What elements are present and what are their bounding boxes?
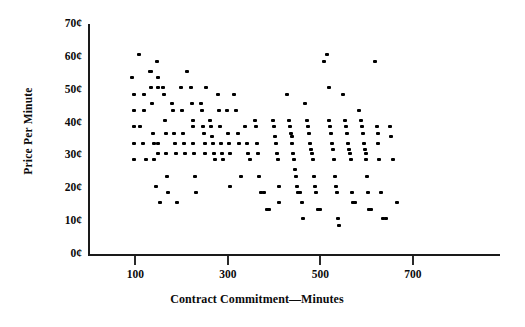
scatter-point <box>265 208 269 211</box>
scatter-point <box>308 142 312 145</box>
scatter-point <box>301 217 305 220</box>
x-tick-mark <box>227 256 229 265</box>
scatter-point <box>148 70 152 73</box>
scatter-point <box>182 142 186 145</box>
scatter-point <box>364 152 368 155</box>
scatter-point <box>149 86 153 89</box>
scatter-point <box>132 142 136 145</box>
scatter-point <box>365 175 369 178</box>
scatter-point <box>163 119 167 122</box>
scatter-point <box>191 119 195 122</box>
scatter-point <box>336 217 340 220</box>
scatter-point <box>277 185 281 188</box>
scatter-point <box>345 132 349 135</box>
scatter-point <box>171 109 175 112</box>
x-axis-title: Contract Commitment—Minutes <box>88 292 426 307</box>
scatter-point <box>248 158 252 161</box>
scatter-point <box>377 158 381 161</box>
scatter-point <box>201 125 205 128</box>
scatter-point <box>132 158 136 161</box>
scatter-point <box>344 125 348 128</box>
scatter-point <box>190 102 194 105</box>
scatter-point <box>228 152 232 155</box>
x-tick-label: 100 <box>115 268 155 280</box>
scatter-point <box>327 119 331 122</box>
scatter-point <box>310 152 314 155</box>
scatter-point <box>277 201 281 204</box>
scatter-point <box>152 158 156 161</box>
scatter-point <box>384 217 388 220</box>
scatter-point <box>209 125 213 128</box>
scatter-point <box>334 185 338 188</box>
scatter-point <box>243 125 247 128</box>
y-tick-label: 10¢ <box>46 214 82 226</box>
scatter-point <box>262 191 266 194</box>
scatter-point <box>381 217 385 220</box>
scatter-point <box>311 158 315 161</box>
scatter-point <box>142 93 146 96</box>
scatter-point <box>149 70 153 73</box>
scatter-point <box>359 119 363 122</box>
scatter-point <box>271 119 275 122</box>
scatter-point <box>346 142 350 145</box>
scatter-point <box>141 142 145 145</box>
scatter-point <box>285 93 289 96</box>
scatter-point <box>292 158 296 161</box>
scatter-point <box>144 158 148 161</box>
scatter-point <box>255 142 259 145</box>
scatter-point <box>290 135 294 138</box>
scatter-point <box>309 148 313 151</box>
scatter-point <box>337 224 341 227</box>
scatter-point <box>161 86 165 89</box>
scatter-point <box>366 191 370 194</box>
scatter-point <box>331 148 335 151</box>
scatter-point <box>130 76 134 79</box>
scatter-point <box>164 152 168 155</box>
x-tick-mark <box>319 256 321 265</box>
scatter-point <box>191 125 195 128</box>
scatter-point <box>363 148 367 151</box>
scatter-point <box>213 158 217 161</box>
scatter-point <box>180 109 184 112</box>
scatter-point <box>234 109 238 112</box>
scatter-point <box>303 102 307 105</box>
y-axis-line <box>88 24 90 256</box>
scatter-point <box>357 109 361 112</box>
scatter-point <box>298 191 302 194</box>
scatter-point <box>349 158 353 161</box>
scatter-point <box>274 142 278 145</box>
scatter-plot-figure: Price Per Minute 0¢10¢20¢30¢40¢50¢60¢70¢… <box>0 0 525 327</box>
y-axis-title: Price Per Minute <box>22 61 34 201</box>
scatter-point <box>256 152 260 155</box>
y-tick-label: 20¢ <box>46 181 82 193</box>
y-tick-label: 60¢ <box>46 50 82 62</box>
scatter-point <box>373 60 377 63</box>
scatter-point <box>219 142 223 145</box>
y-tick-label: 40¢ <box>46 116 82 128</box>
scatter-point <box>361 132 365 135</box>
scatter-point <box>351 201 355 204</box>
scatter-point <box>132 109 136 112</box>
scatter-point <box>174 152 178 155</box>
scatter-point <box>154 185 158 188</box>
scatter-point <box>276 158 280 161</box>
scatter-point <box>325 53 329 56</box>
scatter-point <box>364 158 368 161</box>
scatter-point <box>296 191 300 194</box>
scatter-point <box>200 109 204 112</box>
scatter-point <box>239 175 243 178</box>
scatter-point <box>375 125 379 128</box>
scatter-point <box>217 109 221 112</box>
scatter-point <box>137 53 141 56</box>
scatter-point <box>132 93 136 96</box>
scatter-point <box>253 119 257 122</box>
scatter-point <box>259 191 263 194</box>
scatter-point <box>218 125 222 128</box>
scatter-point <box>199 102 203 105</box>
scatter-point <box>158 201 162 204</box>
scatter-point <box>316 208 320 211</box>
scatter-point <box>376 142 380 145</box>
scatter-point <box>203 142 207 145</box>
scatter-point <box>376 132 380 135</box>
scatter-point <box>155 60 159 63</box>
